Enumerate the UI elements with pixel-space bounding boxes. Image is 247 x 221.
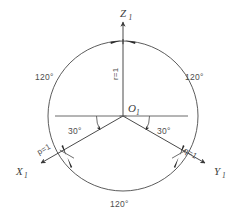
axis-x-letter: X xyxy=(15,165,24,177)
angle-label-30-right: 30° xyxy=(157,126,171,136)
label-axis-x: X 1 xyxy=(15,165,28,180)
axis-z-subscript: 1 xyxy=(129,13,133,22)
isometric-axes-diagram: Z 1 X 1 Y 1 O 1 r=1 p=1 q=1 120° 120° 12… xyxy=(0,0,247,221)
axis-y-letter: Y xyxy=(214,165,222,177)
origin-letter: O xyxy=(128,102,136,114)
label-axis-z: Z 1 xyxy=(120,7,132,22)
diagram-canvas: Z 1 X 1 Y 1 O 1 r=1 p=1 q=1 120° 120° 12… xyxy=(0,0,247,221)
r-coefficient-label: r=1 xyxy=(111,67,120,80)
axis-line-x xyxy=(41,116,123,163)
origin-subscript: 1 xyxy=(136,108,140,117)
axis-z-letter: Z xyxy=(120,7,127,19)
label-origin: O 1 xyxy=(128,102,140,117)
angle-arc-right xyxy=(146,116,150,130)
label-axis-y: Y 1 xyxy=(214,165,226,180)
angle-label-120-left: 120° xyxy=(35,72,54,82)
axis-x-subscript: 1 xyxy=(24,171,28,180)
tick-marker-z xyxy=(111,39,136,44)
angle-label-120-bottom: 120° xyxy=(110,199,129,209)
angle-label-120-right: 120° xyxy=(185,72,204,82)
angle-arc-left xyxy=(96,116,100,130)
p-coefficient-label: p=1 xyxy=(36,142,53,157)
angle-label-30-left: 30° xyxy=(68,126,82,136)
axis-y-subscript: 1 xyxy=(222,171,226,180)
